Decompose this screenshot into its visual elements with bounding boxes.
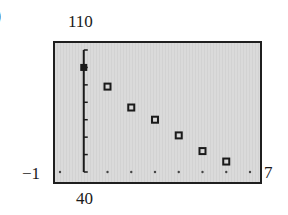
data-point xyxy=(152,117,158,123)
data-point xyxy=(105,84,111,90)
x-tick-dot xyxy=(130,171,132,173)
x-tick-dot xyxy=(178,171,180,173)
x-tick-dot xyxy=(106,171,108,173)
scatter-plot xyxy=(0,0,288,215)
x-tick-dot xyxy=(59,171,61,173)
data-points xyxy=(80,64,229,165)
data-point xyxy=(223,159,229,165)
x-tick-dot xyxy=(249,171,251,173)
x-tick-dot xyxy=(201,171,203,173)
data-point xyxy=(128,105,134,111)
x-tick-dot xyxy=(154,171,156,173)
data-point xyxy=(176,132,182,138)
x-tick-dot xyxy=(225,171,227,173)
data-point xyxy=(200,148,206,154)
data-point xyxy=(80,64,87,71)
